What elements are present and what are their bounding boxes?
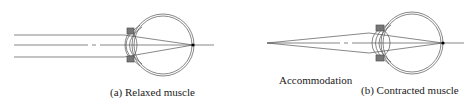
caption-panel-a: (a) Relaxed muscle — [110, 86, 195, 98]
incoming-ray-bottom — [267, 43, 369, 53]
annotation-accommodation: Accommodation — [279, 74, 352, 86]
ciliary-muscle-top — [376, 25, 384, 31]
incoming-ray-top — [267, 33, 369, 43]
panel-b-contracted-eye — [267, 12, 464, 74]
panel-a-relaxed-eye — [14, 14, 214, 76]
ciliary-muscle-top — [127, 28, 134, 34]
ciliary-muscle-bottom — [376, 55, 384, 61]
focus-point — [441, 41, 444, 44]
focus-point — [191, 43, 194, 46]
ciliary-muscle-bottom — [127, 56, 134, 62]
caption-panel-b: (b) Contracted muscle — [361, 84, 459, 96]
